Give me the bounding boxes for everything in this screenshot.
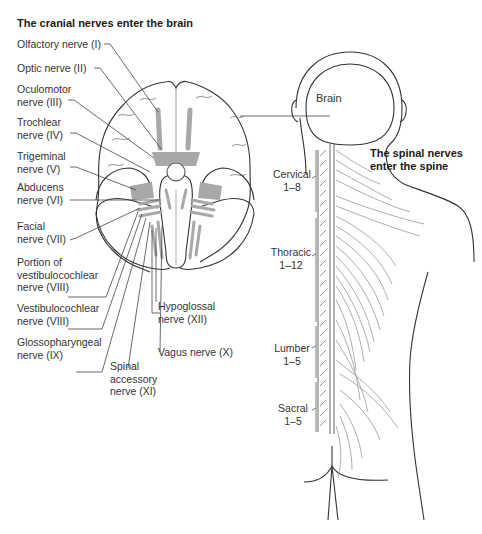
label-lumber: Lumber1–5 bbox=[270, 342, 314, 367]
label-trigeminal-nerve: Trigeminalnerve (V) bbox=[17, 150, 66, 175]
label-sacral: Sacral1–5 bbox=[272, 402, 314, 427]
label-vagus-nerve: Vagus nerve (X) bbox=[158, 346, 233, 359]
label-hypoglossal-nerve: Hypoglossalnerve (XII) bbox=[158, 300, 215, 325]
spinal-nerves-title-line1: The spinal nerves bbox=[370, 147, 463, 159]
label-vestibulocochlear-nerve: Vestibulocochlearnerve (VIII) bbox=[17, 302, 99, 327]
label-spinal-accessory-nerve: Spinalaccessorynerve (XI) bbox=[110, 360, 157, 398]
label-olfactory-nerve: Olfactory nerve (I) bbox=[17, 38, 101, 51]
label-trochlear-nerve: Trochlearnerve (IV) bbox=[17, 116, 63, 141]
label-abducens-nerve: Abducensnerve (VI) bbox=[17, 181, 64, 206]
label-oculomotor-nerve: Oculomotornerve (III) bbox=[17, 83, 71, 108]
label-optic-nerve: Optic nerve (II) bbox=[17, 62, 86, 75]
label-facial-nerve: Facialnerve (VII) bbox=[17, 220, 66, 245]
label-thoracic: Thoracic1–12 bbox=[268, 246, 314, 271]
label-portion-vestibulocochlear-nerve: Portion ofvestibulocochlearnerve (VIII) bbox=[17, 256, 98, 294]
cranial-nerves-title: The cranial nerves enter the brain bbox=[17, 17, 193, 29]
label-glossopharyngeal-nerve: Glossopharyngealnerve (IX) bbox=[17, 336, 102, 361]
spinal-nerves-title-line2: enter the spine bbox=[370, 160, 448, 172]
spinal-column bbox=[318, 144, 334, 434]
spinal-nerves bbox=[336, 150, 424, 478]
label-cervical: Cervical1–8 bbox=[270, 168, 314, 193]
brain-inferior-view bbox=[96, 81, 254, 272]
label-brain: Brain bbox=[316, 92, 342, 105]
